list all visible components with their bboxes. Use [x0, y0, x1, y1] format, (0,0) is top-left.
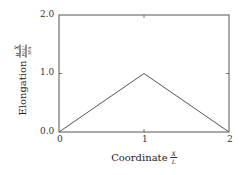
- xtick-0: 0: [57, 134, 63, 144]
- ylabel-text: Elongation: [17, 61, 28, 116]
- ylabel-numerator: u_X: [13, 44, 21, 57]
- ytick-2: 2.0: [40, 9, 54, 19]
- ylabel-fraction: u_X P0 L² 3EA: [13, 44, 32, 57]
- ytick-1: 1.0: [40, 67, 54, 77]
- xlabel-fraction: X L: [171, 150, 177, 165]
- xlabel-text: Coordinate: [111, 152, 167, 163]
- x-axis-label: Coordinate X L: [111, 150, 177, 165]
- elongation-line: [59, 74, 229, 133]
- xtick-2: 2: [227, 134, 233, 144]
- xlabel-denominator: L: [172, 158, 176, 165]
- xtick-1: 1: [142, 134, 148, 144]
- xlabel-numerator: X: [171, 150, 177, 158]
- ytick-0: 0.0: [40, 126, 54, 136]
- ylabel-den-bot: 3EA: [27, 47, 32, 55]
- ylabel-denominator: P0 L² 3EA: [21, 45, 32, 58]
- y-axis-label: Elongation u_X P0 L² 3EA: [13, 44, 32, 115]
- elongation-chart: 2.0 1.0 0.0 0 1 2 Elongation u_X P0 L² 3…: [0, 0, 242, 175]
- plot-svg: [0, 0, 242, 175]
